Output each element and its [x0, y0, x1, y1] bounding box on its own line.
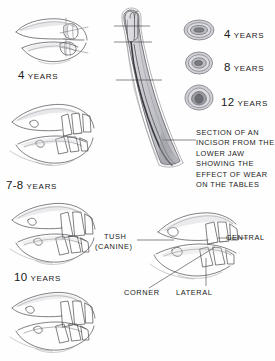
jaw-10-years-caption: 10YEARS [14, 268, 61, 284]
jaw-4-years-caption: 4YEARS [18, 66, 58, 82]
label-lateral: LATERAL [176, 288, 213, 298]
label-tush-line1: TUSH [104, 232, 133, 242]
section-4-years-shape [184, 20, 214, 40]
section-4-years-caption: 4YEARS [224, 25, 264, 41]
age-word: YEARS [27, 182, 58, 191]
age-word: YEARS [237, 99, 268, 108]
label-tush-line2: (CANINE) [95, 242, 133, 252]
jaw-7-8-years-illustration [6, 94, 106, 174]
section-12-years-caption: 12YEARS [221, 93, 268, 109]
age-number: 4 [224, 28, 231, 40]
jaw-10-years-illustration [6, 194, 106, 272]
label-tush: TUSH (CANINE) [104, 232, 133, 252]
age-number: 4 [18, 69, 25, 81]
age-word: YEARS [234, 64, 265, 73]
jaw-4-years-illustration [8, 6, 104, 68]
age-number: 12 [221, 96, 234, 108]
age-number: 10 [14, 271, 27, 283]
age-word: YEARS [28, 72, 59, 81]
age-number: 7-8 [6, 179, 24, 191]
age-number: 8 [224, 61, 231, 73]
section-12-years-shape [185, 85, 213, 110]
caption-line-5: EFFECT OF WEAR [196, 170, 274, 180]
age-word: YEARS [30, 274, 61, 283]
section-8-years-caption: 8YEARS [224, 58, 264, 74]
caption-line-6: ON THE TABLES [196, 180, 274, 190]
caption-line-1: SECTION OF AN [196, 128, 274, 138]
section-8-years-shape [186, 52, 213, 74]
caption-line-3: LOWER JAW [196, 149, 274, 159]
label-corner: CORNER [124, 288, 160, 298]
age-word: YEARS [234, 31, 265, 40]
figure-canvas: 4YEARS [0, 0, 275, 361]
caption-line-4: SHOWING THE [196, 159, 274, 169]
jaw-7-8-years-caption: 7-8YEARS [6, 176, 57, 192]
incisor-section-caption: SECTION OF AN INCISOR FROM THE LOWER JAW… [196, 128, 274, 190]
label-central: CENTRAL [226, 233, 265, 243]
caption-line-2: INCISOR FROM THE [196, 138, 274, 148]
incisor-table-cross-sections-illustration [182, 16, 218, 116]
jaw-bottom-illustration [6, 284, 106, 360]
